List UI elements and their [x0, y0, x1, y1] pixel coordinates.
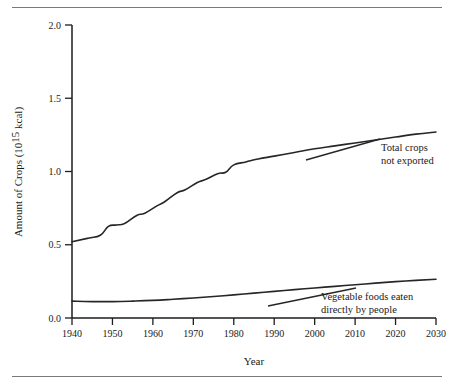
annotation-vegetable-foods-line1: Vegetable foods eaten	[321, 291, 414, 302]
x-tick-label: 2020	[386, 328, 406, 339]
x-tick-label: 1970	[183, 328, 203, 339]
y-tick-label: 0.5	[49, 239, 62, 250]
x-tick-label: 1960	[143, 328, 163, 339]
y-axis-title-exponent: 15	[9, 131, 21, 143]
svg-text:Amount of Crops (1015 kcal): Amount of Crops (1015 kcal)	[9, 107, 26, 237]
x-axis-title: Year	[244, 355, 265, 367]
x-tick-label: 1980	[224, 328, 244, 339]
annotation-total-crops-line1: Total crops	[381, 142, 428, 153]
y-tick-label: 1.0	[49, 166, 62, 177]
annotation-total-crops-line2: not exported	[381, 155, 435, 166]
y-axis-title-tail: kcal)	[12, 107, 25, 132]
y-tick-label: 1.5	[49, 93, 62, 104]
y-tick-label: 0.0	[49, 313, 62, 324]
x-axis-tick-labels: 1940195019601970198019902000201020202030	[62, 328, 446, 339]
y-tick-label: 2.0	[49, 20, 62, 31]
x-tick-label: 1940	[62, 328, 82, 339]
x-tick-label: 1990	[264, 328, 284, 339]
x-tick-label: 2010	[345, 328, 365, 339]
x-tick-label: 2030	[426, 328, 446, 339]
x-tick-label: 1950	[102, 328, 122, 339]
x-tick-label: 2000	[305, 328, 325, 339]
y-axis-tick-labels: 0.00.51.01.52.0	[49, 20, 62, 324]
x-axis-ticks	[72, 318, 436, 325]
y-axis-ticks	[65, 25, 72, 318]
y-axis-title-main: Amount of Crops (10	[12, 142, 25, 237]
annotation-vegetable-foods-line2: directly by people	[321, 304, 397, 315]
line-chart: 0.00.51.01.52.0 194019501960197019801990…	[0, 0, 454, 388]
leader-line-total-crops	[306, 139, 380, 160]
figure-container: 0.00.51.01.52.0 194019501960197019801990…	[0, 0, 454, 388]
y-axis-title: Amount of Crops (1015 kcal)	[9, 107, 26, 237]
